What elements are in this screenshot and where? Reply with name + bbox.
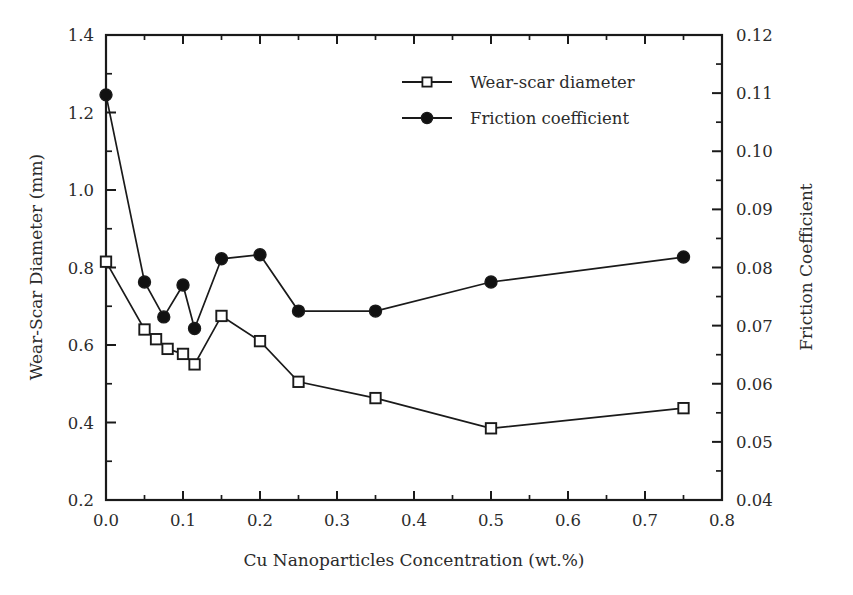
x-tick-label: 0.1 (170, 511, 196, 530)
x-tick-label: 0.4 (401, 511, 427, 530)
data-point-filled-circle (139, 276, 151, 288)
data-point-filled-circle (189, 323, 201, 335)
y-tick-label: 1.4 (68, 26, 94, 45)
y-tick-label: 0.2 (68, 491, 94, 510)
figure: 0.00.10.20.30.40.50.60.70.8 0.20.40.60.8… (0, 0, 853, 595)
legend-label: Friction coefficient (470, 109, 629, 128)
data-point-open-square (139, 324, 149, 334)
data-point-open-square (678, 403, 688, 413)
y2-tick-label: 0.04 (736, 491, 773, 510)
y2-tick-label: 0.10 (736, 142, 773, 161)
y-tick-label: 0.6 (68, 336, 94, 355)
plot-frame (106, 35, 722, 500)
x-axis-title: Cu Nanoparticles Concentration (wt.%) (244, 550, 585, 570)
chart-legend: Wear-scar diameterFriction coefficient (402, 73, 635, 128)
y2-tick-label: 0.11 (736, 84, 773, 103)
legend-marker-filled-circle (421, 112, 432, 123)
y-axis-tick-labels: 0.20.40.60.81.01.21.4 (68, 26, 94, 510)
x-tick-label: 0.8 (709, 511, 735, 530)
x-axis-tick-labels: 0.00.10.20.30.40.50.60.70.8 (93, 511, 735, 530)
x-tick-label: 0.5 (478, 511, 504, 530)
y2-tick-label: 0.09 (736, 200, 773, 219)
data-point-open-square (370, 393, 380, 403)
data-series-layer (100, 89, 690, 434)
data-point-filled-circle (370, 305, 382, 317)
legend-marker-open-square (422, 77, 431, 86)
series-line (106, 95, 684, 329)
data-point-filled-circle (177, 279, 189, 291)
chart-canvas: 0.00.10.20.30.40.50.60.70.8 0.20.40.60.8… (0, 0, 853, 595)
y2-axis-title: Friction Coefficient (796, 183, 816, 351)
data-point-open-square (216, 311, 226, 321)
x-tick-label: 0.2 (247, 511, 273, 530)
data-point-filled-circle (293, 305, 305, 317)
data-point-open-square (255, 336, 265, 346)
legend-label: Wear-scar diameter (470, 73, 635, 92)
data-point-filled-circle (678, 251, 690, 263)
data-point-filled-circle (158, 311, 170, 323)
y-tick-label: 0.8 (68, 259, 94, 278)
data-point-open-square (486, 423, 496, 433)
y2-tick-label: 0.05 (736, 433, 773, 452)
y2-tick-label: 0.08 (736, 259, 773, 278)
data-point-open-square (151, 334, 161, 344)
x-tick-label: 0.3 (324, 511, 350, 530)
y2-axis-tick-labels: 0.040.050.060.070.080.090.100.110.12 (736, 26, 773, 510)
y2-tick-label: 0.06 (736, 375, 773, 394)
series-line (106, 262, 684, 429)
data-point-open-square (293, 377, 303, 387)
y-axis-title: Wear-Scar Diameter (mm) (26, 154, 46, 380)
legend-item-wear-scar-diameter: Wear-scar diameter (402, 73, 635, 92)
data-point-filled-circle (254, 249, 266, 261)
legend-item-friction-coefficient: Friction coefficient (402, 109, 629, 128)
y-tick-label: 1.0 (68, 181, 94, 200)
data-point-open-square (178, 349, 188, 359)
data-point-filled-circle (485, 276, 497, 288)
data-point-filled-circle (100, 89, 112, 101)
data-point-open-square (189, 359, 199, 369)
x-tick-label: 0.6 (555, 511, 581, 530)
y-tick-label: 1.2 (68, 104, 94, 123)
data-point-open-square (162, 344, 172, 354)
y2-axis-ticks (712, 35, 722, 500)
x-tick-label: 0.7 (632, 511, 658, 530)
data-point-filled-circle (216, 253, 228, 265)
data-point-open-square (101, 256, 111, 266)
y2-tick-label: 0.07 (736, 317, 773, 336)
y2-tick-label: 0.12 (736, 26, 773, 45)
x-axis-ticks (106, 35, 722, 500)
x-tick-label: 0.0 (93, 511, 119, 530)
y-tick-label: 0.4 (68, 414, 94, 433)
